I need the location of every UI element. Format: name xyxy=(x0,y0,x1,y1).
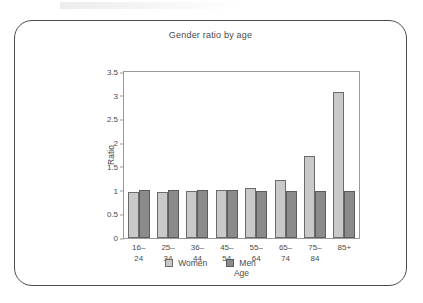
chart-title: Gender ratio by age xyxy=(15,30,406,40)
legend-label: Women xyxy=(178,258,207,268)
bar-group: 85+ xyxy=(333,72,355,238)
bar-women[interactable] xyxy=(304,156,315,238)
bar-men[interactable] xyxy=(256,191,267,238)
bar-women[interactable] xyxy=(186,191,197,238)
legend-item-women[interactable]: Women xyxy=(165,258,207,268)
bar-women[interactable] xyxy=(216,190,227,238)
chart-legend: WomenMen xyxy=(15,258,406,268)
bar-men[interactable] xyxy=(315,191,326,238)
bar-group: 36–44 xyxy=(186,72,208,238)
bar-women[interactable] xyxy=(275,180,286,238)
x-tick-label: 85+ xyxy=(327,243,361,254)
bar-women[interactable] xyxy=(245,188,256,238)
bar-men[interactable] xyxy=(227,190,238,238)
bar-women[interactable] xyxy=(333,92,344,238)
bar-group: 55–64 xyxy=(245,72,267,238)
bar-group: 65–74 xyxy=(275,72,297,238)
x-axis-label: Age xyxy=(124,268,359,278)
bar-women[interactable] xyxy=(157,192,168,238)
bars-layer: 16–2425–3436–4445–5455–6465–7475–8485+ xyxy=(124,72,359,238)
y-tick-label: 0.5 xyxy=(107,210,124,219)
scan-artifact xyxy=(60,2,240,9)
y-tick-label: 1.5 xyxy=(107,162,124,171)
legend-swatch-icon xyxy=(165,259,173,267)
legend-label: Men xyxy=(239,258,256,268)
y-tick-label: 1 xyxy=(114,186,124,195)
bar-group: 25–34 xyxy=(157,72,179,238)
y-tick-label: 3 xyxy=(114,91,124,100)
legend-swatch-icon xyxy=(226,259,234,267)
y-tick-label: 2.5 xyxy=(107,115,124,124)
bar-men[interactable] xyxy=(139,190,150,238)
bar-group: 75–84 xyxy=(304,72,326,238)
bar-men[interactable] xyxy=(344,191,355,238)
bar-group: 16–24 xyxy=(128,72,150,238)
bar-women[interactable] xyxy=(128,192,139,238)
chart-figure-frame: Gender ratio by age Ratio 00.511.522.533… xyxy=(14,20,407,286)
y-tick-label: 3.5 xyxy=(107,68,124,77)
bar-men[interactable] xyxy=(168,190,179,238)
bar-group: 45–54 xyxy=(216,72,238,238)
bar-men[interactable] xyxy=(197,190,208,238)
bar-men[interactable] xyxy=(286,191,297,238)
y-tick-label: 0 xyxy=(114,234,124,243)
y-tick-label: 2 xyxy=(114,139,124,148)
legend-item-men[interactable]: Men xyxy=(226,258,256,268)
plot-area: Ratio 00.511.522.533.5 16–2425–3436–4445… xyxy=(123,71,360,239)
